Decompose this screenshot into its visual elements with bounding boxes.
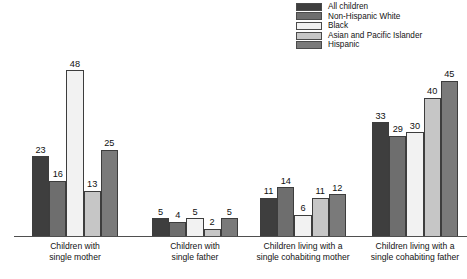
legend-swatch-icon: [296, 41, 322, 49]
legend-item-label: Asian and Pacific Islander: [328, 31, 422, 40]
bar-value-label: 11: [264, 186, 274, 196]
bar-group: 3329304045: [372, 57, 458, 236]
bar-column: 11: [260, 57, 277, 236]
bar: [406, 132, 423, 235]
bar-value-label: 6: [300, 203, 305, 213]
bar-value-label: 33: [375, 111, 385, 121]
bar-column: 25: [101, 57, 118, 236]
bar-value-label: 4: [175, 210, 180, 220]
bar-column: 4: [169, 57, 186, 236]
bar: [329, 194, 346, 235]
bar-column: 5: [221, 57, 238, 236]
legend-swatch-icon: [296, 32, 322, 40]
bar-value-label: 45: [444, 69, 454, 79]
bar: [49, 181, 66, 236]
bar: [84, 191, 101, 236]
bar: [66, 70, 83, 235]
bar-value-label: 13: [87, 179, 97, 189]
bar-column: 6: [294, 57, 311, 236]
bar-value-label: 5: [158, 207, 163, 217]
bar-value-label: 14: [281, 176, 291, 186]
legend-swatch-icon: [296, 3, 322, 11]
bar-column: 30: [406, 57, 423, 236]
legend-item: Hispanic: [296, 40, 422, 50]
bar: [372, 122, 389, 236]
bar-column: 29: [389, 57, 406, 236]
bar: [277, 187, 294, 235]
bar-column: 11: [312, 57, 329, 236]
bar-column: 2: [204, 57, 221, 236]
bar-column: 12: [329, 57, 346, 236]
bar-group: 111461112: [260, 57, 346, 236]
bar-chart: t All childrenNon-Hispanic WhiteBlackAsi…: [0, 0, 467, 279]
bar: [312, 198, 329, 236]
category-label-line: Children with: [5, 241, 145, 252]
bar-value-label: 40: [427, 86, 437, 96]
bar-column: 45: [441, 57, 458, 236]
bar: [294, 215, 311, 236]
bar: [221, 218, 238, 235]
category-label: Children living with asingle cohabiting …: [345, 241, 467, 263]
bar-value-label: 23: [35, 145, 45, 155]
bar: [389, 136, 406, 236]
legend-swatch-icon: [296, 22, 322, 30]
bar-value-label: 48: [70, 59, 80, 69]
bar-column: 5: [152, 57, 169, 236]
bar-column: 23: [32, 57, 49, 236]
bar: [204, 229, 221, 236]
bar-column: 48: [66, 57, 83, 236]
bar-column: 16: [49, 57, 66, 236]
bar-column: 33: [372, 57, 389, 236]
y-axis-label-fragment: t: [0, 80, 8, 90]
category-label-line: single mother: [5, 252, 145, 263]
bar: [260, 198, 277, 236]
plot-area: 2316481325545251114611123329304045: [14, 56, 467, 237]
bar-group: 54525: [152, 57, 238, 236]
bar: [186, 218, 203, 235]
bar-value-label: 2: [210, 217, 215, 227]
legend-item-label: Non-Hispanic White: [328, 12, 400, 21]
bar: [101, 150, 118, 236]
x-axis-baseline: [14, 236, 467, 237]
bar-column: 40: [424, 57, 441, 236]
category-label-line: Children living with a: [345, 241, 467, 252]
bar-value-label: 25: [104, 138, 114, 148]
bar-value-label: 30: [410, 121, 420, 131]
bar-value-label: 5: [192, 207, 197, 217]
bar-value-label: 12: [332, 183, 342, 193]
bar-column: 13: [84, 57, 101, 236]
bar: [441, 81, 458, 236]
legend-item-label: All children: [328, 2, 368, 11]
bar-value-label: 5: [227, 207, 232, 217]
bar: [424, 98, 441, 236]
legend-item: Asian and Pacific Islander: [296, 31, 422, 41]
legend-item: All children: [296, 2, 422, 12]
bar-value-label: 29: [393, 124, 403, 134]
chart-legend: All childrenNon-Hispanic WhiteBlackAsian…: [296, 2, 422, 50]
bar-group: 2316481325: [32, 57, 118, 236]
bar-column: 5: [186, 57, 203, 236]
legend-item-label: Hispanic: [328, 40, 359, 49]
legend-swatch-icon: [296, 12, 322, 20]
bar-value-label: 16: [53, 169, 63, 179]
category-label-line: single cohabiting father: [345, 252, 467, 263]
bar: [32, 156, 49, 235]
category-label: Children withsingle mother: [5, 241, 145, 263]
legend-item: Non-Hispanic White: [296, 12, 422, 22]
bar-value-label: 11: [315, 186, 325, 196]
bar: [152, 218, 169, 235]
bar-column: 14: [277, 57, 294, 236]
legend-item-label: Black: [328, 21, 348, 30]
category-axis-labels: Children withsingle motherChildren withs…: [14, 241, 467, 271]
legend-item: Black: [296, 21, 422, 31]
bar: [169, 222, 186, 236]
